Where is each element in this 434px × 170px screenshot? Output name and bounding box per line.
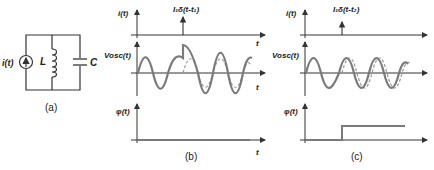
c-voltage-axis-label: Vosc(t) <box>272 51 299 60</box>
lc-tank-impulse-figure: i(t) L C (a) i(t) I₁δ(t-t₁) t Vosc(t) t … <box>0 0 434 170</box>
caption-b: (b) <box>185 151 197 162</box>
caption-c: (c) <box>351 151 363 162</box>
panel-c: i(t) I₁δ(t-t₂) Vosc(t) φ(t) (c) <box>272 5 427 162</box>
b-time-label-2: t <box>256 83 259 92</box>
b-current-axis-label: i(t) <box>118 9 129 18</box>
c-impulse-label: I₁δ(t-t₂) <box>333 5 360 14</box>
panel-a-circuit: i(t) L C (a) <box>2 35 98 113</box>
source-label: i(t) <box>2 58 14 68</box>
circuit-wires <box>26 35 80 90</box>
b-voltage-axis-label: Vosc(t) <box>104 51 131 60</box>
c-current-axis-label: i(t) <box>286 9 297 18</box>
caption-a: (a) <box>45 102 57 113</box>
capacitor-icon <box>72 58 88 66</box>
panel-b: i(t) I₁δ(t-t₁) t Vosc(t) t φ(t) t (b) <box>104 5 265 162</box>
c-phase-axis-label: φ(t) <box>284 107 298 116</box>
current-source-icon <box>20 55 33 69</box>
b-oscillation-wave <box>138 45 252 93</box>
capacitor-label: C <box>90 57 98 68</box>
c-phase-step <box>305 126 405 140</box>
b-impulse-label: I₁δ(t-t₁) <box>173 5 199 14</box>
b-time-label-1: t <box>256 39 259 48</box>
b-phase-axis-label: φ(t) <box>116 107 130 116</box>
inductor-label: L <box>40 56 46 67</box>
b-time-label-3: t <box>256 148 259 157</box>
inductor-icon <box>52 49 57 77</box>
